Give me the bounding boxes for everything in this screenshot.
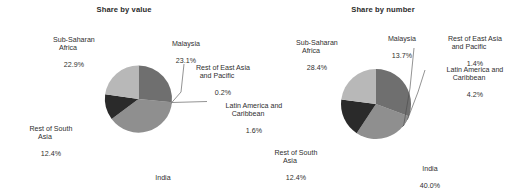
pie-slices-share-by-number (341, 69, 411, 139)
pie-label-sub-saharan-africa: Sub-Saharan Africa 22.9% (32, 27, 104, 79)
chart-panel-share-by-value: Share by value (0, 0, 258, 191)
pie-label-latin-america-and-caribbean: Latin America and Caribbean 4.2% (422, 57, 516, 109)
pie-label-india: India 39.9% (128, 165, 186, 191)
pie-label-rest-of-south-asia: Rest of South Asia 12.4% (253, 140, 327, 191)
pie-label-malaysia: Malaysia 13.7% (368, 26, 424, 69)
pie-chart-figure: Share by value (0, 0, 516, 191)
pie-label-india: India 40.0% (396, 156, 452, 191)
pie-label-rest-of-south-asia: Rest of South Asia 12.4% (10, 116, 80, 168)
pie-slices-share-by-value (105, 65, 172, 132)
pie-slice-sub-saharan-africa (105, 65, 138, 99)
chart-panel-share-by-number: Share by number (258, 0, 516, 191)
pie-label-sub-saharan-africa: Sub-Saharan Africa 28.4% (274, 30, 348, 82)
